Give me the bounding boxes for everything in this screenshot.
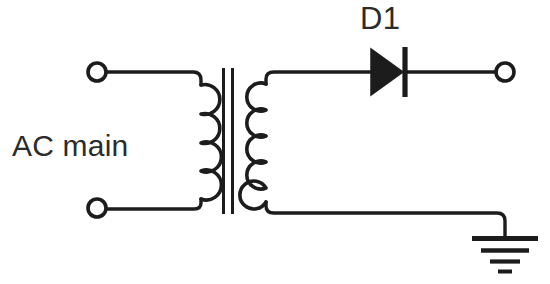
ground-symbol xyxy=(472,239,538,272)
secondary-top-wire xyxy=(266,72,371,84)
transformer-primary-coil xyxy=(201,85,221,200)
ac-source-label: AC main xyxy=(12,131,128,161)
ac-input-terminal-top[interactable] xyxy=(88,63,106,81)
secondary-bottom-wire xyxy=(266,202,505,237)
transformer-secondary-coil xyxy=(240,83,266,209)
ac-input-terminal-bottom[interactable] xyxy=(88,199,106,217)
primary-bottom-wire xyxy=(106,199,201,209)
circuit-diagram: AC main D1 xyxy=(0,0,550,284)
primary-top-wire xyxy=(106,72,201,85)
diode-label: D1 xyxy=(360,3,400,34)
dc-output-terminal[interactable] xyxy=(496,63,514,81)
diode-anode-triangle xyxy=(371,49,403,95)
